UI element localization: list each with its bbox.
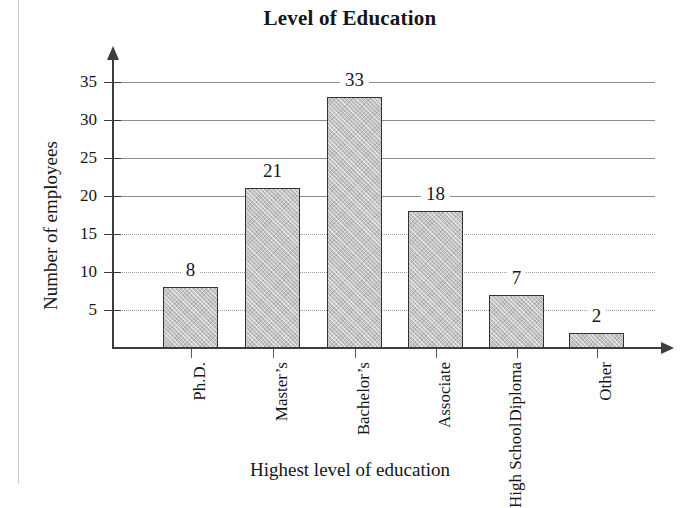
x-axis-category-label-line: Ph.D. — [190, 362, 209, 401]
x-axis-title: Highest level of education — [0, 459, 700, 481]
x-axis-arrow-icon — [661, 342, 674, 354]
x-axis-category-label-line: Bachelor’s — [354, 362, 373, 435]
x-axis-tick-mark — [191, 349, 192, 358]
bar-value-label: 7 — [469, 268, 564, 287]
y-axis-line — [112, 58, 114, 349]
bar-value-label: 8 — [143, 260, 238, 279]
grid-line — [113, 234, 655, 235]
x-axis-category-label-line: Associate — [435, 362, 454, 428]
bar[interactable] — [408, 211, 463, 348]
y-axis-title: Number of employees — [40, 141, 62, 310]
y-axis-tick-label: 30 — [0, 111, 97, 128]
bar-value-label: 2 — [549, 306, 644, 325]
x-axis-line — [112, 347, 663, 349]
x-axis-category-label-line: Diploma — [507, 362, 525, 422]
bar-value-label: 18 — [388, 184, 483, 203]
x-axis-category-label: High SchoolDiploma — [507, 362, 525, 508]
x-axis-tick-mark — [517, 349, 518, 358]
grid-line — [113, 120, 655, 121]
grid-line — [113, 196, 655, 197]
x-axis-category-label: Master’s — [273, 362, 291, 421]
bar-value-label: 21 — [225, 161, 320, 180]
grid-line — [113, 158, 655, 159]
bar[interactable] — [569, 333, 624, 348]
bar[interactable] — [489, 295, 544, 348]
bar[interactable] — [163, 287, 218, 348]
y-axis-arrow-icon — [107, 46, 119, 60]
x-axis-tick-mark — [273, 349, 274, 358]
x-axis-tick-mark — [355, 349, 356, 358]
bar[interactable] — [245, 188, 300, 348]
x-axis-category-label: Associate — [436, 362, 454, 428]
bar-value-label: 33 — [307, 70, 402, 89]
x-axis-category-label: Other — [597, 362, 615, 401]
x-axis-category-label-line: Master’s — [272, 362, 291, 421]
x-axis-category-label: Ph.D. — [191, 362, 209, 401]
y-axis-tick-label: 35 — [0, 73, 97, 90]
x-axis-category-label-line: Other — [596, 362, 615, 401]
bar[interactable] — [327, 97, 382, 348]
x-axis-tick-mark — [436, 349, 437, 358]
x-axis-tick-mark — [597, 349, 598, 358]
x-axis-category-label: Bachelor’s — [355, 362, 373, 435]
